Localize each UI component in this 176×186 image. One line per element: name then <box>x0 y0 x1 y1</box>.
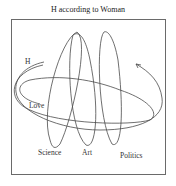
label-h: H <box>25 57 30 66</box>
h-arc <box>16 62 162 130</box>
label-science: Science <box>38 148 61 157</box>
science-loop <box>47 32 81 147</box>
label-love: Love <box>29 101 44 110</box>
diagram-canvas <box>0 0 176 186</box>
politics-loop <box>99 32 121 145</box>
label-politics: Politics <box>120 151 143 160</box>
label-art: Art <box>82 148 92 157</box>
